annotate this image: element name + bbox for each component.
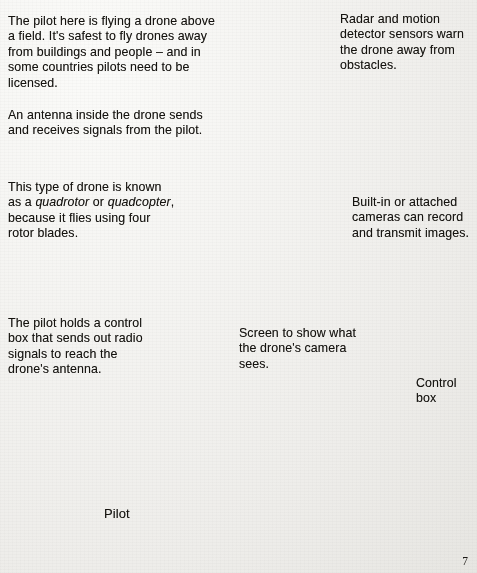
annotation-cameras: Built-in or attached cameras can record … — [352, 195, 477, 241]
annotation-pilot-holds: The pilot holds a control box that sends… — [8, 316, 158, 378]
illustrated-page: UAV — [0, 0, 477, 573]
annotation-intro: The pilot here is flying a drone above a… — [8, 14, 223, 91]
annotation-quadrotor-term1: quadrotor — [35, 195, 89, 209]
label-control-box: Control box — [416, 376, 476, 407]
magnifier-inset: UAV — [200, 271, 452, 515]
leader-radar — [362, 88, 386, 115]
page-number: 7 — [462, 555, 468, 567]
label-pilot: Pilot — [104, 506, 164, 521]
controller-body-label: UAV — [385, 390, 416, 409]
drone-body-label: UAV — [304, 135, 328, 149]
annotation-radar: Radar and motion detector sensors warn t… — [340, 12, 475, 74]
annotation-screen: Screen to show what the drone's camera s… — [239, 326, 359, 372]
annotation-antenna: An antenna inside the drone sends and re… — [8, 108, 213, 139]
annotation-quadrotor-term2: quadcopter — [108, 195, 171, 209]
quadrotor-drone: UAV — [196, 63, 442, 208]
annotation-quadrotor: This type of drone is known as a quadrot… — [8, 180, 178, 242]
annotation-quadrotor-part2: or — [89, 195, 107, 209]
